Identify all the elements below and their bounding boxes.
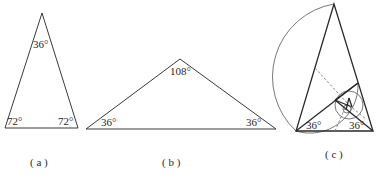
figure-b: 108° 36° 36° ( b ) [86, 59, 276, 169]
diagram-canvas: 36° 72° 72° ( a ) 108° 36° 36° ( b ) [0, 0, 384, 177]
angle-c-base-left: 36° [306, 119, 321, 131]
angle-b-base-right: 36° [246, 116, 261, 128]
subdivision-line-6 [346, 98, 349, 110]
figure-c: 36° 36° ( c ) [273, 4, 373, 161]
spiral-arc-large [273, 4, 334, 131]
dashed-line-1 [315, 68, 349, 105]
angle-b-apex: 108° [170, 65, 191, 77]
angle-c-base-right: 36° [349, 119, 364, 131]
caption-a: ( a ) [30, 156, 48, 169]
subdivision-line-2 [335, 83, 358, 100]
angle-a-base-right: 72° [58, 115, 73, 127]
angle-a-apex: 36° [33, 38, 48, 50]
caption-b: ( b ) [162, 156, 181, 169]
angle-b-base-left: 36° [101, 116, 116, 128]
triangle-a [5, 13, 78, 128]
angle-a-base-left: 72° [7, 115, 22, 127]
figure-a: 36° 72° 72° ( a ) [5, 13, 78, 169]
caption-c: ( c ) [325, 148, 343, 161]
